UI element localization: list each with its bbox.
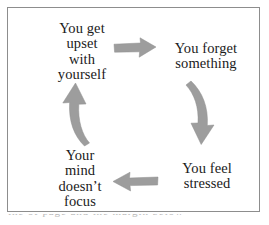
node-you-feel-stressed: You feel stressed: [160, 161, 254, 192]
node-forget-line-2: something: [158, 56, 254, 71]
node-focus-line-4: focus: [34, 194, 126, 209]
diagram-frame: You get upset with yourself You forget s…: [7, 7, 260, 212]
arrow-curved-up-icon: [62, 81, 90, 147]
node-focus-line-1: Your: [34, 148, 126, 163]
arrow-left-icon: [111, 171, 159, 193]
node-upset-line-1: You get: [36, 21, 128, 36]
cut-off-caption-strip: the of page and the margin below: [0, 214, 269, 225]
page-canvas: You get upset with yourself You forget s…: [0, 0, 269, 225]
cut-off-caption-text: the of page and the margin below: [8, 214, 263, 217]
node-stressed-line-2: stressed: [160, 176, 254, 191]
arrow-right-icon: [113, 37, 157, 59]
node-stressed-line-1: You feel: [160, 161, 254, 176]
node-you-forget-something: You forget something: [158, 41, 254, 72]
node-forget-line-1: You forget: [158, 41, 254, 56]
arrow-curved-down-icon: [186, 80, 216, 146]
